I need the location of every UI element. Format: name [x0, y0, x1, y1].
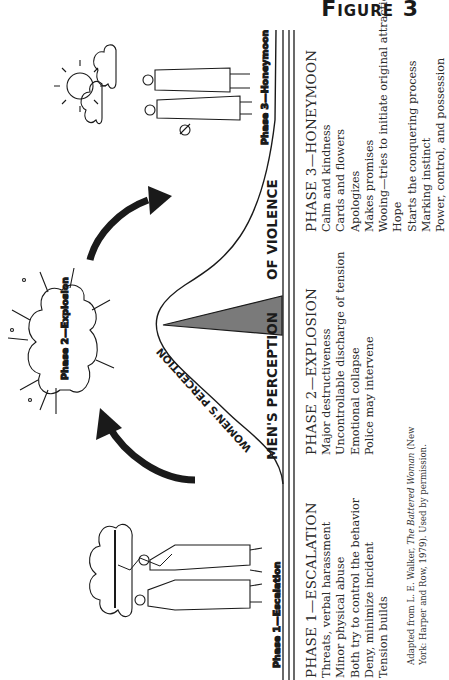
phase-1-item: Minor physical abuse — [334, 498, 348, 678]
phase-3-item: Calm and kindness — [320, 0, 334, 232]
phase-3-item: Hope — [391, 0, 405, 232]
phase-3-item: Apologizes — [349, 0, 363, 232]
phase-2-column: PHASE 2—EXPLOSION Major destructiveness … — [303, 252, 377, 455]
phase-3-item: Starts the conquering process — [406, 0, 420, 232]
baseline-lines — [283, 30, 294, 680]
phase-2-item: Uncontrollable discharge of tension — [334, 252, 348, 455]
phase-2-item: Major destructiveness — [320, 252, 334, 455]
credit-book-title: The Battered Woman — [406, 453, 416, 545]
phase-3-caption: Phase 3—Honeymoon — [259, 30, 270, 145]
source-credit: Adapted from L. E. Walker, The Battered … — [405, 427, 429, 665]
arrow-phase1-to-phase2-icon — [96, 408, 195, 480]
phase-2-item: Police may intervene — [363, 252, 377, 455]
phase-3-item: Marking instinct — [420, 0, 434, 232]
womens-perception-label: WOMEN'S PERCEPTION — [154, 346, 254, 455]
phase-3-item: Makes promises — [363, 0, 377, 232]
phase-1-item: Both try to control the behavior — [349, 498, 363, 678]
phase-3-title: PHASE 3—HONEYMOON — [303, 0, 320, 232]
phase-1-item: Tension builds — [377, 498, 391, 678]
phase-1-caption: Phase 1—Escalation — [271, 561, 282, 668]
phase-1-item: Threats, verbal harassment — [320, 498, 334, 678]
arrow-phase2-to-phase3-icon — [90, 186, 172, 260]
cloud-icon — [81, 82, 102, 124]
credit-suffix: (New — [406, 427, 416, 453]
sun-icon — [67, 73, 93, 99]
phase-2-explosion-illustration: Phase 2—Explosion — [8, 268, 114, 414]
phase-1-item: Deny, minimize incident — [363, 498, 377, 678]
credit-line-2: York: Harper and Row, 1979). Used by per… — [417, 427, 429, 665]
phase-2-caption: Phase 2—Explosion — [59, 277, 70, 380]
of-violence-label: OF VIOLENCE — [264, 179, 280, 280]
phase-3-column: PHASE 3—HONEYMOON Calm and kindness Card… — [303, 0, 449, 232]
phase-2-item: Emotional collapse — [349, 252, 363, 455]
phase-1-escalation-illustration: Phase 1—Escalation — [90, 524, 282, 668]
phase-2-title: PHASE 2—EXPLOSION — [303, 252, 320, 455]
storm-cloud-icon — [90, 524, 133, 616]
phase-3-honeymoon-illustration: Phase 3—Honeymoon — [54, 30, 270, 145]
phase-3-item: Wooing—tries to initiate original attrac… — [377, 0, 391, 232]
phase-3-item: Power, control, and possession — [434, 0, 448, 232]
phase-1-column: PHASE 1—ESCALATION Threats, verbal haras… — [303, 498, 391, 678]
credit-prefix: Adapted from L. E. Walker, — [406, 545, 416, 665]
mens-perception-label: MEN'S PERCEPTION — [264, 312, 280, 460]
phase-1-title: PHASE 1—ESCALATION — [303, 498, 320, 678]
phase-3-item: Cards and flowers — [334, 0, 348, 232]
